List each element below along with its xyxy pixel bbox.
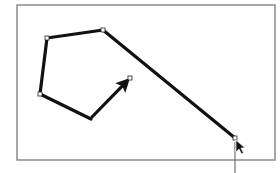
vertex-handle[interactable] — [45, 36, 49, 40]
vertex-handles[interactable] — [38, 28, 237, 140]
arrow-shaft — [92, 87, 122, 117]
vertex-handle[interactable] — [233, 136, 237, 140]
arrow-pointer-icon — [236, 140, 245, 154]
polyline-shape[interactable] — [40, 30, 235, 138]
vertex-handle[interactable] — [101, 28, 105, 32]
arrow-shape[interactable] — [92, 76, 132, 117]
vertex-handle[interactable] — [38, 92, 42, 96]
drawing-canvas[interactable] — [0, 0, 280, 173]
vertex-handle[interactable] — [128, 76, 132, 80]
